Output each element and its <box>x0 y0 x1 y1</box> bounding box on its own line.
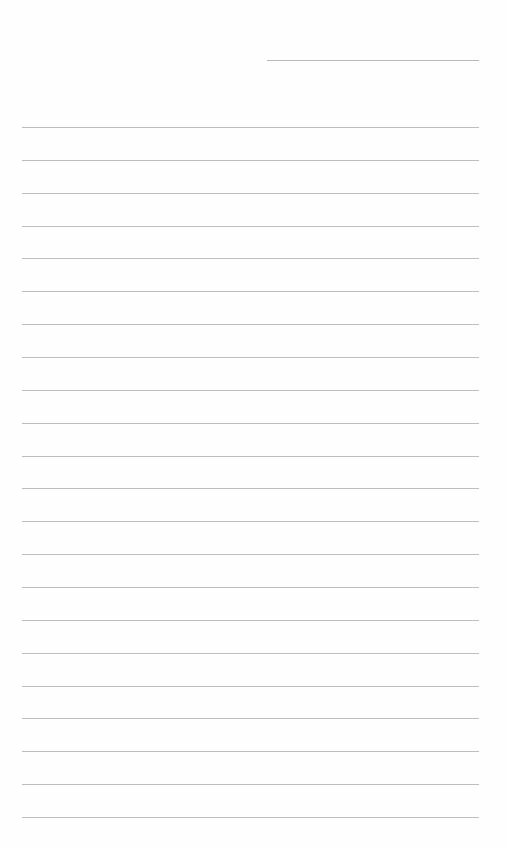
ruled-line <box>22 291 479 292</box>
lined-paper-page <box>0 0 506 849</box>
ruled-line <box>22 488 479 489</box>
ruled-line <box>22 653 479 654</box>
ruled-line <box>22 686 479 687</box>
ruled-line <box>22 784 479 785</box>
ruled-line <box>22 127 479 128</box>
ruled-line <box>22 423 479 424</box>
ruled-line <box>22 390 479 391</box>
ruled-line <box>22 160 479 161</box>
ruled-line <box>22 324 479 325</box>
ruled-line <box>22 817 479 818</box>
ruled-line <box>22 718 479 719</box>
ruled-line <box>22 620 479 621</box>
ruled-line <box>22 258 479 259</box>
ruled-line <box>22 357 479 358</box>
ruled-line <box>22 193 479 194</box>
header-write-line <box>267 60 479 61</box>
ruled-line <box>22 751 479 752</box>
ruled-line <box>22 587 479 588</box>
ruled-line <box>22 456 479 457</box>
ruled-line <box>22 521 479 522</box>
ruled-line <box>22 226 479 227</box>
ruled-line <box>22 554 479 555</box>
